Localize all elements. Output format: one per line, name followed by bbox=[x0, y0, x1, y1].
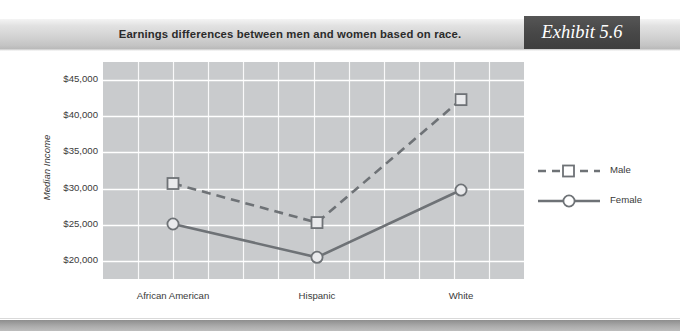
y-axis-tick-label: $30,000 bbox=[42, 182, 98, 193]
y-axis-tick-label: $35,000 bbox=[42, 145, 98, 156]
legend-label: Female bbox=[610, 194, 642, 205]
plot-svg bbox=[103, 62, 524, 279]
y-axis-tick-label: $40,000 bbox=[42, 109, 98, 120]
footer-hairline bbox=[0, 318, 680, 319]
legend-item-female[interactable]: Female bbox=[536, 190, 676, 220]
data-point-female-0 bbox=[167, 218, 178, 229]
legend-swatch-female bbox=[536, 190, 602, 212]
data-point-male-1 bbox=[312, 217, 323, 228]
page-title: Earnings differences between men and wom… bbox=[80, 24, 500, 44]
legend-swatch-male bbox=[536, 160, 602, 182]
footer-bar bbox=[0, 320, 680, 331]
exhibit-label: Exhibit 5.6 bbox=[524, 16, 640, 49]
series-line-male bbox=[173, 100, 461, 223]
data-point-male-2 bbox=[456, 94, 467, 105]
data-point-male-0 bbox=[168, 178, 179, 189]
y-axis-tick-label: $45,000 bbox=[42, 73, 98, 84]
data-point-female-1 bbox=[311, 252, 322, 263]
legend-label: Male bbox=[610, 164, 631, 175]
x-axis-tick-label-african-american: African American bbox=[103, 290, 243, 301]
x-axis-tick-label-white: White bbox=[391, 290, 531, 301]
y-axis-tick-label: $25,000 bbox=[42, 218, 98, 229]
y-axis-tick-label: $20,000 bbox=[42, 254, 98, 265]
legend-item-male[interactable]: Male bbox=[536, 160, 676, 190]
legend-marker-square bbox=[563, 166, 574, 177]
x-axis-tick-label-hispanic: Hispanic bbox=[247, 290, 387, 301]
legend: MaleFemale bbox=[536, 160, 676, 220]
data-point-female-2 bbox=[455, 184, 466, 195]
legend-marker-circle bbox=[563, 195, 574, 206]
y-axis-tick-labels: $20,000$25,000$30,000$35,000$40,000$45,0… bbox=[40, 50, 98, 290]
